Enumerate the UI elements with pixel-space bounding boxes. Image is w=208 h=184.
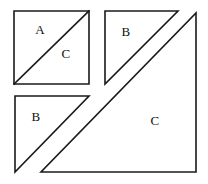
label-C-square: C [62,46,71,61]
figure-canvas: A C B B C [0,0,208,184]
label-A-square: A [35,22,45,37]
square-AC-group: A C [14,11,89,84]
label-B-bottom-left: B [32,109,41,124]
geometric-diagram: A C B B C [0,0,208,184]
label-C-large: C [151,113,160,128]
label-B-top-right: B [122,24,131,39]
